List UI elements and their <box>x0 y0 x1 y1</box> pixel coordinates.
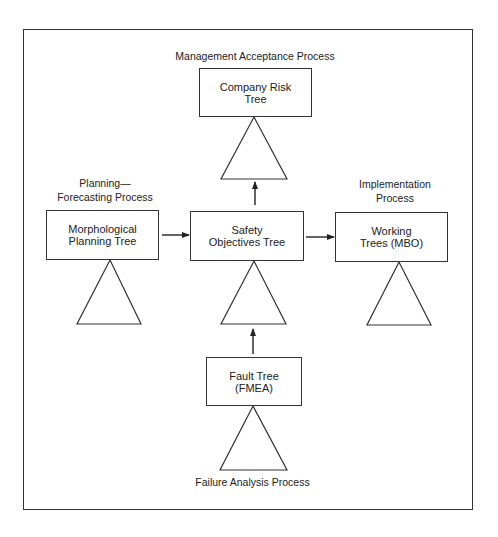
management-acceptance-label: Management Acceptance Process <box>140 49 370 63</box>
working-triangle <box>367 262 431 325</box>
company-risk-tree-node: Company Risk Tree <box>199 68 312 117</box>
working-trees-node: Working Trees (MBO) <box>335 212 448 262</box>
safety-triangle <box>221 261 286 324</box>
fault-tree-node: Fault Tree (FMEA) <box>206 357 302 406</box>
failure-analysis-label: Failure Analysis Process <box>160 475 345 489</box>
implementation-process-label: Implementation Process <box>335 177 455 205</box>
morphological-planning-tree-node: Morphological Planning Tree <box>46 210 159 260</box>
safety-objectives-tree-node: Safety Objectives Tree <box>190 211 304 261</box>
company-risk-triangle <box>221 117 287 179</box>
fault-triangle <box>220 406 287 470</box>
morphological-triangle <box>77 260 141 324</box>
planning-forecasting-label: Planning— Forecasting Process <box>40 176 170 204</box>
